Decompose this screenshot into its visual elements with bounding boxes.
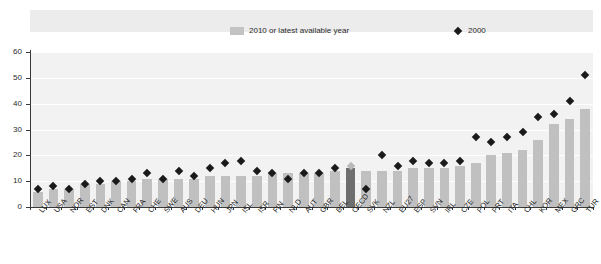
point-eu27 xyxy=(393,161,401,169)
point-can xyxy=(112,177,120,185)
legend-bar-swatch-icon xyxy=(230,27,244,35)
point-kor xyxy=(534,112,542,120)
y-axis-tick-label: 40 xyxy=(0,100,22,108)
y-axis-tick-label: 60 xyxy=(0,48,22,56)
point-pol xyxy=(471,133,479,141)
point-lux xyxy=(34,185,42,193)
y-axis-tick-label: 20 xyxy=(0,151,22,159)
point-mex xyxy=(550,110,558,118)
x-axis-labels: LUXUSANORESTDNKCANFRACHESWEAUSDEUHUNJPNI… xyxy=(30,209,601,264)
points-layer xyxy=(30,52,593,207)
point-chl xyxy=(518,128,526,136)
point-ita xyxy=(503,133,511,141)
point-prt xyxy=(487,138,495,146)
point-isl xyxy=(237,156,245,164)
chart-container: 2010 or latest available year 2000 01020… xyxy=(0,0,601,264)
plot-area xyxy=(30,52,593,207)
y-axis-tick-label: 50 xyxy=(0,74,22,82)
point-usa xyxy=(49,182,57,190)
legend-bars-label: 2010 or latest available year xyxy=(249,26,349,35)
point-gbr xyxy=(315,169,323,177)
point-che xyxy=(143,169,151,177)
point-aut xyxy=(299,169,307,177)
legend-points-label: 2000 xyxy=(468,26,486,35)
point-irl xyxy=(440,159,448,167)
point-grc xyxy=(565,97,573,105)
point-esp xyxy=(409,156,417,164)
point-fra xyxy=(127,174,135,182)
point-bel xyxy=(331,164,339,172)
point-nld xyxy=(284,174,292,182)
legend-item-points: 2000 xyxy=(455,26,486,35)
point-cze xyxy=(456,156,464,164)
point-swe xyxy=(159,174,167,182)
y-axis-tick xyxy=(26,155,31,156)
y-axis-tick xyxy=(26,104,31,105)
y-axis-tick-label: 10 xyxy=(0,177,22,185)
legend-item-bars: 2010 or latest available year xyxy=(230,26,349,35)
point-deu xyxy=(190,172,198,180)
point-fin xyxy=(268,169,276,177)
point-oecd xyxy=(346,161,354,169)
point-nor xyxy=(65,185,73,193)
point-tur xyxy=(581,71,589,79)
y-axis-tick xyxy=(26,130,31,131)
point-jpn xyxy=(221,159,229,167)
point-dnk xyxy=(96,177,104,185)
point-isr xyxy=(253,167,261,175)
y-axis-tick xyxy=(26,181,31,182)
y-axis-tick-label: 0 xyxy=(0,203,22,211)
legend: 2010 or latest available year 2000 xyxy=(30,10,593,32)
point-svn xyxy=(425,159,433,167)
legend-diamond-icon xyxy=(454,26,462,34)
y-axis-tick xyxy=(26,207,31,208)
point-hun xyxy=(206,164,214,172)
y-axis-tick xyxy=(26,52,31,53)
point-aus xyxy=(174,167,182,175)
y-axis-tick xyxy=(26,78,31,79)
point-est xyxy=(80,180,88,188)
y-axis-tick-label: 30 xyxy=(0,126,22,134)
point-nzl xyxy=(378,151,386,159)
y-axis-labels: 0102030405060 xyxy=(0,0,26,264)
